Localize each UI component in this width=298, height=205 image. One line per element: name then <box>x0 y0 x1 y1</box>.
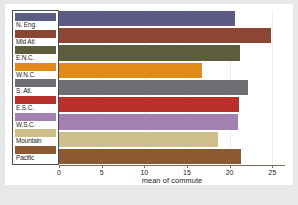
legend-item: Pacific <box>15 146 56 163</box>
bar-w-s-c[interactable] <box>59 114 238 129</box>
plot-area <box>59 10 285 165</box>
tick-label: 10 <box>140 169 148 176</box>
bar-slot <box>59 62 285 79</box>
x-axis-label: mean of commute <box>59 176 285 185</box>
legend-item: W.N.C. <box>15 63 56 80</box>
bar-e-n-c[interactable] <box>59 45 240 60</box>
chart-legend: N. Eng. Mid Atl E.N.C. W.N.C. S. Atl. E.… <box>12 10 59 165</box>
tick-label: 20 <box>226 169 234 176</box>
bar-slot <box>59 79 285 96</box>
legend-label-mountain: Mountain <box>15 137 56 145</box>
bar-slot <box>59 10 285 27</box>
bar-mountain[interactable] <box>59 132 218 147</box>
legend-item: N. Eng. <box>15 13 56 30</box>
legend-label-enc: E.N.C. <box>15 54 56 62</box>
legend-item: S. Atl. <box>15 79 56 96</box>
tick-mark <box>59 165 60 168</box>
bar-slot <box>59 96 285 113</box>
legend-label-s-atl: S. Atl. <box>15 87 56 95</box>
tick-label: 15 <box>183 169 191 176</box>
legend-swatch-pacific <box>15 146 56 154</box>
bar-pacific[interactable] <box>59 149 241 164</box>
legend-label-esc: E.S.C. <box>15 104 56 112</box>
legend-item: Mountain <box>15 129 56 146</box>
tick-mark <box>102 165 103 168</box>
tick-label: 25 <box>268 169 276 176</box>
legend-item: E.S.C. <box>15 96 56 113</box>
bar-slot <box>59 148 285 165</box>
legend-label-mid-atl: Mid Atl <box>15 38 56 46</box>
tick-label: 5 <box>100 169 104 176</box>
legend-swatch-enc <box>15 46 56 54</box>
legend-item: W.S.C. <box>15 113 56 130</box>
bar-w-n-c[interactable] <box>59 63 202 78</box>
tick-mark <box>144 165 145 168</box>
legend-label-wsc: W.S.C. <box>15 121 56 129</box>
legend-item: Mid Atl <box>15 30 56 47</box>
bar-slot <box>59 27 285 44</box>
legend-label-n-eng: N. Eng. <box>15 21 56 29</box>
legend-item: E.N.C. <box>15 46 56 63</box>
bar-slot <box>59 131 285 148</box>
legend-swatch-mid-atl <box>15 30 56 38</box>
legend-swatch-wnc <box>15 63 56 71</box>
legend-swatch-wsc <box>15 113 56 121</box>
legend-swatch-mountain <box>15 129 56 137</box>
bar-slot <box>59 113 285 130</box>
chart-screenshot: N. Eng. Mid Atl E.N.C. W.N.C. S. Atl. E.… <box>0 0 298 205</box>
legend-label-wnc: W.N.C. <box>15 71 56 79</box>
bar-s-atl[interactable] <box>59 80 248 95</box>
tick-mark <box>187 165 188 168</box>
bars-layer <box>59 10 285 165</box>
legend-swatch-esc <box>15 96 56 104</box>
bar-n-eng[interactable] <box>59 11 235 26</box>
tick-mark <box>272 165 273 168</box>
tick-label: 0 <box>57 169 61 176</box>
bar-slot <box>59 44 285 61</box>
legend-swatch-n-eng <box>15 13 56 21</box>
legend-label-pacific: Pacific <box>15 154 56 162</box>
bar-e-s-c[interactable] <box>59 97 239 112</box>
legend-swatch-s-atl <box>15 79 56 87</box>
tick-mark <box>230 165 231 168</box>
bar-mid-atl[interactable] <box>59 28 271 43</box>
